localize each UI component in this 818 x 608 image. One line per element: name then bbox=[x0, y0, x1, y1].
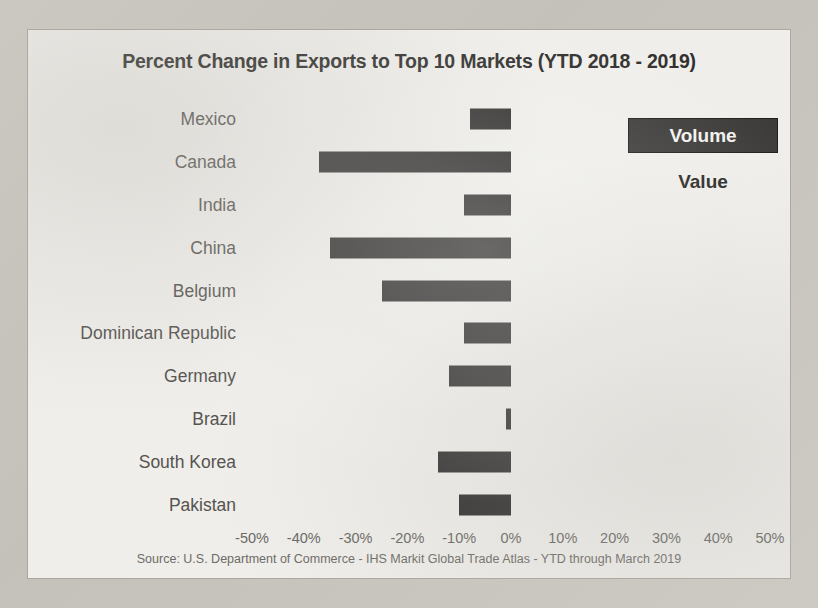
x-tick-neg10: -10% bbox=[442, 530, 476, 546]
chart-card: Percent Change in Exports to Top 10 Mark… bbox=[28, 30, 790, 578]
category-label-belgium: Belgium bbox=[173, 280, 236, 301]
x-tick-20: 20% bbox=[600, 530, 629, 546]
chart-row: Dominican Republic bbox=[252, 312, 770, 355]
bar-canada[interactable] bbox=[319, 152, 511, 173]
bar-south-korea[interactable] bbox=[438, 451, 511, 472]
category-label-mexico: Mexico bbox=[181, 109, 236, 130]
chart-row: Pakistan bbox=[252, 483, 770, 526]
category-label-pakistan: Pakistan bbox=[169, 494, 236, 515]
bar-brazil[interactable] bbox=[506, 408, 511, 429]
x-tick-10: 10% bbox=[548, 530, 577, 546]
chart-row: Belgium bbox=[252, 269, 770, 312]
category-label-brazil: Brazil bbox=[192, 408, 236, 429]
chart-row: China bbox=[252, 226, 770, 269]
bar-pakistan[interactable] bbox=[459, 494, 511, 515]
chart-row: Germany bbox=[252, 355, 770, 398]
bar-belgium[interactable] bbox=[382, 280, 512, 301]
x-tick-50: 50% bbox=[755, 530, 784, 546]
legend: Volume Value bbox=[628, 118, 778, 198]
x-tick-40: 40% bbox=[704, 530, 733, 546]
bar-india[interactable] bbox=[464, 194, 511, 215]
source-note: Source: U.S. Department of Commerce - IH… bbox=[28, 552, 790, 566]
page-title: Percent Change in Exports to Top 10 Mark… bbox=[28, 50, 790, 73]
category-label-south-korea: South Korea bbox=[139, 451, 236, 472]
bar-dominican-republic[interactable] bbox=[464, 323, 511, 344]
x-tick-neg30: -30% bbox=[339, 530, 373, 546]
x-tick-0: 0% bbox=[501, 530, 522, 546]
x-tick-neg40: -40% bbox=[287, 530, 321, 546]
category-label-canada: Canada bbox=[175, 152, 236, 173]
x-axis-tick-labels: -50%-40%-30%-20%-10%0%10%20%30%40%50% bbox=[252, 530, 770, 554]
bar-germany[interactable] bbox=[449, 366, 511, 387]
scanned-page-background: Percent Change in Exports to Top 10 Mark… bbox=[0, 0, 818, 608]
bar-mexico[interactable] bbox=[470, 109, 511, 130]
category-label-dominican-republic: Dominican Republic bbox=[80, 323, 236, 344]
category-label-china: China bbox=[190, 237, 236, 258]
category-label-germany: Germany bbox=[164, 366, 236, 387]
x-tick-30: 30% bbox=[652, 530, 681, 546]
chart-row: South Korea bbox=[252, 440, 770, 483]
category-label-india: India bbox=[198, 194, 236, 215]
x-tick-neg20: -20% bbox=[390, 530, 424, 546]
legend-item-value[interactable]: Value bbox=[628, 165, 778, 198]
chart-row: Brazil bbox=[252, 398, 770, 441]
bar-china[interactable] bbox=[330, 237, 511, 258]
x-tick-neg50: -50% bbox=[235, 530, 269, 546]
legend-item-volume[interactable]: Volume bbox=[628, 118, 778, 153]
